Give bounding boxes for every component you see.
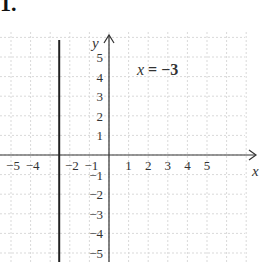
x-tick-label: −4 [26, 158, 40, 173]
y-tick-label: −1 [89, 168, 103, 183]
x-tick-label: 2 [145, 158, 152, 173]
y-axis-label: y [90, 35, 99, 51]
x-tick-label: −2 [65, 158, 79, 173]
y-tick-label: 3 [97, 89, 104, 104]
y-tick-label: −3 [89, 207, 103, 222]
x-axis-label: x [251, 163, 259, 179]
equation-label: x = −3 [136, 61, 178, 78]
y-tick-label: −5 [89, 246, 103, 261]
x-tick-label: 3 [165, 158, 172, 173]
y-tick-label: 2 [97, 109, 104, 124]
x-tick-label: 5 [204, 158, 211, 173]
graph-figure: 1. xy−5−4−2−11234554321−1−2−3−4−5x = −3 [0, 0, 261, 262]
y-tick-label: −4 [89, 226, 103, 241]
y-tick-label: 1 [97, 128, 104, 143]
coordinate-plane: xy−5−4−2−11234554321−1−2−3−4−5x = −3 [0, 0, 261, 262]
y-tick-label: 4 [97, 70, 104, 85]
x-tick-label: 1 [125, 158, 132, 173]
y-tick-label: −2 [89, 187, 103, 202]
x-tick-label: 4 [184, 158, 191, 173]
problem-number: 1. [0, 0, 17, 17]
x-tick-label: −5 [6, 158, 20, 173]
y-tick-label: 5 [97, 50, 104, 65]
